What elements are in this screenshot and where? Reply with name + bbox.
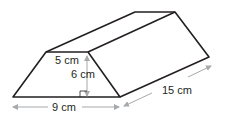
bottom-width-label: 9 cm bbox=[52, 102, 76, 113]
length-arrow-upper bbox=[188, 66, 211, 77]
top-right-edge bbox=[88, 12, 175, 52]
height-label: 6 cm bbox=[71, 69, 95, 80]
length-arrow-lower bbox=[124, 93, 152, 106]
right-angle-icon bbox=[80, 91, 87, 97]
trapezoidal-prism-diagram: 5 cm 6 cm 9 cm 15 cm bbox=[0, 0, 228, 122]
top-width-label: 5 cm bbox=[55, 55, 79, 66]
prism-drawing bbox=[0, 0, 228, 122]
length-label: 15 cm bbox=[162, 85, 192, 96]
